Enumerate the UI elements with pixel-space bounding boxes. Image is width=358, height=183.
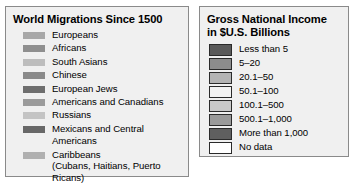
color-swatch-no-data	[209, 142, 232, 154]
color-swatch-americans-and-canadians	[23, 99, 45, 106]
color-swatch-europeans	[23, 32, 45, 39]
legend-item-label: 5–20	[239, 57, 260, 69]
migrations-legend-title: World Migrations Since 1500	[13, 13, 182, 26]
legend-item-label: 500.1–1,000	[239, 113, 292, 125]
legend-item-50-to-100: 50.1–100	[207, 85, 342, 98]
legend-item-label: Chinese	[52, 69, 87, 81]
color-swatch-5-to-20	[209, 58, 232, 70]
legend-item-label: Americans and Canadians	[52, 96, 163, 108]
color-swatch-chinese	[23, 72, 45, 79]
legend-item-label: South Asians	[52, 56, 107, 68]
legend-item-africans: Africans	[13, 42, 182, 54]
legend-item-mexicans-and-central-americans: Mexicans and Central Americans	[13, 123, 182, 148]
legend-item-5-to-20: 5–20	[207, 57, 342, 70]
color-swatch-100-to-500	[209, 100, 232, 112]
legend-item-label: Less than 5	[239, 43, 288, 55]
legend-item-caribbeans: Caribbeans (Cubans, Haitians, Puerto Ric…	[13, 149, 182, 183]
legend-item-less-than-5: Less than 5	[207, 43, 342, 56]
legend-item-label: 20.1–50	[239, 71, 273, 83]
color-swatch-russians	[23, 112, 45, 119]
legend-item-europeans: Europeans	[13, 29, 182, 41]
gni-legend-list: Less than 5 5–20 20.1–50 50.1–100 100.1–…	[207, 43, 342, 154]
color-swatch-caribbeans	[23, 152, 45, 159]
color-swatch-50-to-100	[209, 86, 232, 98]
legend-item-chinese: Chinese	[13, 69, 182, 81]
color-swatch-more-than-1000	[209, 128, 232, 140]
legend-item-label: Africans	[52, 42, 86, 54]
legend-item-label: 50.1–100	[239, 85, 279, 97]
legend-item-label: 100.1–500	[239, 99, 284, 111]
color-swatch-500-to-1000	[209, 114, 232, 126]
color-swatch-less-than-5	[209, 44, 232, 56]
gross-national-income-legend: Gross National Income in $U.S. Billions …	[199, 6, 349, 157]
legend-item-label: Europeans	[52, 29, 98, 41]
legend-item-100-to-500: 100.1–500	[207, 99, 342, 112]
legend-item-label: Caribbeans (Cubans, Haitians, Puerto Ric…	[52, 149, 182, 183]
legend-item-label: European Jews	[52, 83, 117, 95]
legend-item-european-jews: European Jews	[13, 83, 182, 95]
migrations-legend-list: Europeans Africans South Asians Chinese …	[13, 29, 182, 183]
legend-item-no-data: No data	[207, 141, 342, 154]
color-swatch-africans	[23, 45, 45, 52]
world-migrations-legend: World Migrations Since 1500 Europeans Af…	[5, 6, 189, 177]
legend-item-20-to-50: 20.1–50	[207, 71, 342, 84]
legend-item-more-than-1000: More than 1,000	[207, 127, 342, 140]
legend-item-label: Mexicans and Central Americans	[52, 123, 182, 148]
legend-item-americans-and-canadians: Americans and Canadians	[13, 96, 182, 108]
legend-figure: World Migrations Since 1500 Europeans Af…	[0, 0, 358, 183]
gni-legend-title: Gross National Income in $U.S. Billions	[207, 13, 342, 39]
color-swatch-european-jews	[23, 86, 45, 93]
legend-item-south-asians: South Asians	[13, 56, 182, 68]
color-swatch-20-to-50	[209, 72, 232, 84]
legend-item-russians: Russians	[13, 109, 182, 121]
legend-item-500-to-1000: 500.1–1,000	[207, 113, 342, 126]
legend-item-label: More than 1,000	[239, 127, 308, 139]
color-swatch-mexicans-and-central-americans	[23, 126, 45, 133]
legend-item-label: Russians	[52, 109, 91, 121]
color-swatch-south-asians	[23, 59, 45, 66]
legend-item-label: No data	[239, 141, 272, 153]
